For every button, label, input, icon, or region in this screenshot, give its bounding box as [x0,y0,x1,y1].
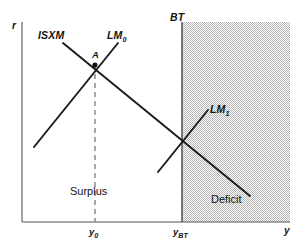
x-tick-label-y0-subscript: 0 [94,231,98,240]
bt-curve-label: BT [170,12,184,23]
point-a-label: A [92,50,99,60]
lm0-curve-label-base: LM [107,29,123,41]
y-axis-label: r [12,21,16,31]
surplus-region-label: Surplus [70,186,107,197]
lm1-curve-label: LM1 [210,104,230,115]
x-tick-label-y0: y0 [89,227,98,237]
lm1-curve-label-subscript: 1 [226,109,230,118]
lm0-curve-label: LM0 [107,30,127,41]
point-a-marker [92,62,97,67]
economics-diagram: r y ISXM LM0 LM1 BT A Surplus Deficit y0… [0,0,304,248]
lm0-curve-label-subscript: 0 [123,35,127,44]
x-tick-label-ybt-subscript: BT [178,231,188,240]
lm0-curve-line [34,43,118,147]
x-tick-label-ybt: yBT [173,227,188,237]
isxm-curve-label: ISXM [38,30,64,41]
x-axis-label: y [284,226,290,236]
lm1-curve-label-base: LM [210,103,226,115]
deficit-region-label: Deficit [211,194,242,205]
